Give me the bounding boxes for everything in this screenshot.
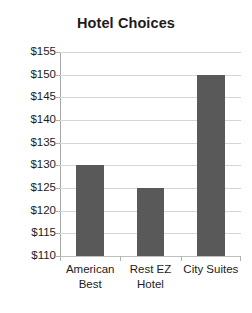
y-axis-tick-mark <box>56 120 60 121</box>
x-axis-tick-mark <box>120 256 121 261</box>
x-axis-tick-mark <box>181 256 182 261</box>
category-label-line: American <box>60 262 120 277</box>
x-axis-tick-mark <box>60 256 61 261</box>
y-axis-tick-mark <box>56 188 60 189</box>
y-axis-tick-label: $145 <box>10 91 56 103</box>
category-label-line: Best <box>60 277 120 292</box>
category-label-line: Rest EZ <box>120 262 180 277</box>
y-axis-tick-label: $115 <box>10 227 56 239</box>
y-axis-tick-mark <box>56 165 60 166</box>
y-axis-tick-mark <box>56 143 60 144</box>
bar <box>137 188 165 256</box>
bar <box>197 75 225 256</box>
y-axis-tick-mark <box>56 52 60 53</box>
bar <box>76 165 104 256</box>
y-axis-tick-mark <box>56 97 60 98</box>
y-axis-tick-label: $140 <box>10 114 56 126</box>
x-axis-category-label: AmericanBest <box>60 262 120 308</box>
y-axis-tick-mark <box>56 75 60 76</box>
x-axis-category-label: City Suites <box>181 262 241 308</box>
x-axis-category-labels: AmericanBestRest EZHotelCity Suites <box>60 262 241 308</box>
y-axis-tick-label: $120 <box>10 205 56 217</box>
y-axis-tick-mark <box>56 256 60 257</box>
gridline <box>60 52 241 53</box>
category-label-line: Hotel <box>120 277 180 292</box>
y-axis-tick-mark <box>56 211 60 212</box>
y-axis-tick-label: $130 <box>10 159 56 171</box>
plot-area <box>60 52 241 256</box>
y-axis-tick-label: $155 <box>10 46 56 58</box>
y-axis-tick-label: $110 <box>10 250 56 262</box>
bar-chart: Hotel Choices $155$150$145$140$135$130$1… <box>0 0 252 313</box>
y-axis-labels: $155$150$145$140$135$130$125$120$115$110 <box>6 0 56 313</box>
y-axis-tick-label: $150 <box>10 69 56 81</box>
y-axis-tick-label: $135 <box>10 137 56 149</box>
category-label-line: City Suites <box>181 262 241 277</box>
x-axis-category-label: Rest EZHotel <box>120 262 180 308</box>
y-axis-tick-mark <box>56 233 60 234</box>
x-axis-tick-mark <box>240 256 241 261</box>
y-axis-tick-label: $125 <box>10 182 56 194</box>
